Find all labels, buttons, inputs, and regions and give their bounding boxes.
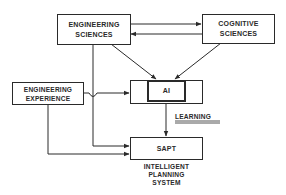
sapt-caption: INTELLIGENT PLANNING SYSTEM bbox=[130, 163, 203, 187]
node-engineering-sciences-line2: SCIENCES bbox=[75, 30, 112, 40]
node-engineering-sciences: ENGINEERING SCIENCES bbox=[57, 14, 131, 45]
node-cognitive-sciences-line2: SCIENCES bbox=[220, 29, 257, 39]
node-engineering-sciences-line1: ENGINEERING bbox=[68, 20, 119, 30]
sapt-caption-line3: SYSTEM bbox=[130, 179, 203, 187]
node-sapt-label: SAPT bbox=[157, 144, 176, 154]
node-cognitive-sciences: COGNITIVE SCIENCES bbox=[202, 14, 275, 44]
node-engineering-experience-line1: ENGINEERING bbox=[24, 85, 72, 94]
node-sapt: SAPT bbox=[130, 137, 203, 160]
node-ai-label: AI bbox=[163, 86, 170, 96]
node-engineering-experience: ENGINEERING EXPERIENCE bbox=[12, 82, 84, 105]
node-cognitive-sciences-line1: COGNITIVE bbox=[218, 19, 258, 29]
sapt-caption-line1: INTELLIGENT bbox=[130, 163, 203, 171]
arrow-engexp-to-ai bbox=[84, 93, 129, 97]
node-engineering-experience-line2: EXPERIENCE bbox=[26, 94, 71, 103]
sapt-caption-line2: PLANNING bbox=[130, 171, 203, 179]
node-ai: AI bbox=[147, 80, 186, 102]
knowledge-flow-diagram: ENGINEERING SCIENCES COGNITIVE SCIENCES … bbox=[0, 0, 286, 195]
learning-label: LEARNING bbox=[175, 113, 220, 121]
arrow-engsci-to-sapt bbox=[93, 44, 129, 146]
arrow-cogsci-to-ai bbox=[175, 43, 221, 79]
arrow-engsci-to-ai bbox=[111, 44, 156, 79]
